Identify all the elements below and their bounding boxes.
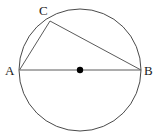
geometry-diagram: A B C (0, 0, 156, 138)
center-point-dot (77, 67, 83, 73)
vertex-label-a: A (5, 63, 15, 78)
vertex-label-b: B (144, 63, 153, 78)
vertex-label-c: C (39, 3, 48, 18)
chord-cb (50, 21, 141, 70)
geometry-canvas: A B C (0, 0, 156, 138)
